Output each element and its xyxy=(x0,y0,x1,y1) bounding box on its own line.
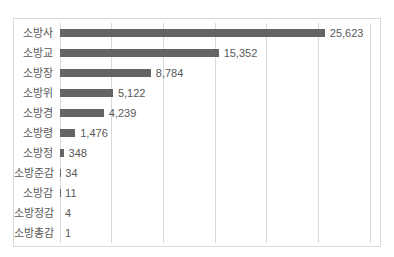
category-label: 소방정감 xyxy=(14,203,60,223)
bar-track: 34 xyxy=(60,163,370,183)
bar xyxy=(60,69,151,77)
bar xyxy=(60,109,104,117)
bar-row: 소방준감 34 xyxy=(14,163,370,183)
bar-row: 소방사 25,623 xyxy=(14,23,370,43)
category-label: 소방령 xyxy=(14,123,60,143)
bar-row: 소방정감 4 xyxy=(14,203,370,223)
bar-track: 1,476 xyxy=(60,123,370,143)
value-label: 34 xyxy=(65,163,77,183)
bar xyxy=(60,129,75,137)
bar-track: 4,239 xyxy=(60,103,370,123)
value-label: 1,476 xyxy=(80,123,108,143)
bar-row: 소방교 15,352 xyxy=(14,43,370,63)
value-label: 25,623 xyxy=(330,23,364,43)
category-label: 소방사 xyxy=(14,23,60,43)
bar-row: 소방위 5,122 xyxy=(14,83,370,103)
bar-row: 소방정 348 xyxy=(14,143,370,163)
bar-track: 15,352 xyxy=(60,43,370,63)
value-label: 8,784 xyxy=(156,63,184,83)
category-label: 소방교 xyxy=(14,43,60,63)
category-label: 소방감 xyxy=(14,183,60,203)
value-label: 15,352 xyxy=(224,43,258,63)
value-label: 4 xyxy=(65,203,71,223)
chart-rows: 소방사 25,623 소방교 15,352 소방장 8,784 소방위 5,12… xyxy=(14,23,370,243)
chart-frame: 소방사 25,623 소방교 15,352 소방장 8,784 소방위 5,12… xyxy=(13,18,381,247)
category-label: 소방경 xyxy=(14,103,60,123)
value-label: 5,122 xyxy=(118,83,146,103)
category-label: 소방총감 xyxy=(14,223,60,243)
bar xyxy=(60,29,325,37)
bar-track: 25,623 xyxy=(60,23,370,43)
bar-track: 348 xyxy=(60,143,370,163)
bar-row: 소방감 11 xyxy=(14,183,370,203)
bar-row: 소방총감 1 xyxy=(14,223,370,243)
bar-row: 소방장 8,784 xyxy=(14,63,370,83)
bar-track: 4 xyxy=(60,203,370,223)
bar-track: 8,784 xyxy=(60,63,370,83)
bar xyxy=(60,149,64,157)
bar xyxy=(60,49,219,57)
value-label: 1 xyxy=(65,223,71,243)
value-label: 11 xyxy=(65,183,76,203)
bar xyxy=(60,89,113,97)
bar-track: 11 xyxy=(60,183,370,203)
category-label: 소방장 xyxy=(14,63,60,83)
category-label: 소방위 xyxy=(14,83,60,103)
bar-track: 5,122 xyxy=(60,83,370,103)
chart-canvas: 소방사 25,623 소방교 15,352 소방장 8,784 소방위 5,12… xyxy=(0,0,394,257)
bar-row: 소방경 4,239 xyxy=(14,103,370,123)
category-label: 소방정 xyxy=(14,143,60,163)
value-label: 4,239 xyxy=(109,103,137,123)
bar-row: 소방령 1,476 xyxy=(14,123,370,143)
value-label: 348 xyxy=(69,143,87,163)
category-label: 소방준감 xyxy=(14,163,60,183)
bar-track: 1 xyxy=(60,223,370,243)
